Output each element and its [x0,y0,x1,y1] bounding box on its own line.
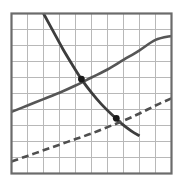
upper-intersection-point [78,76,85,83]
chart-figure [0,0,180,187]
chart-screenshot [0,0,180,187]
lower-intersection-point [113,115,120,122]
plot-svg [0,0,180,187]
